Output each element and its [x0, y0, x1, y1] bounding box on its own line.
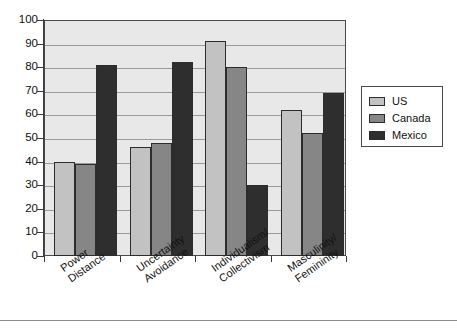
y-tick-label: 30 — [2, 179, 38, 191]
legend-swatch-canada-icon — [369, 114, 385, 123]
legend-item-mexico: Mexico — [369, 127, 442, 144]
x-tick-mark — [271, 256, 272, 262]
x-tick-mark — [120, 256, 121, 262]
y-tick-label: 70 — [2, 85, 38, 97]
x-tick-mark — [195, 256, 196, 262]
y-tick-label: 60 — [2, 109, 38, 121]
y-tick-label: 100 — [2, 14, 38, 26]
bar-mexico-1 — [172, 62, 193, 256]
legend-item-canada: Canada — [369, 110, 442, 127]
x-tick-mark — [44, 256, 45, 262]
bar-us-1 — [130, 147, 151, 256]
y-tick-label: 0 — [2, 250, 38, 262]
legend-swatch-mexico-icon — [369, 131, 385, 140]
y-tick-label: 90 — [2, 38, 38, 50]
y-tick-label: 20 — [2, 203, 38, 215]
legend-item-us: US — [369, 93, 442, 110]
y-tick-label: 40 — [2, 156, 38, 168]
bars-layer — [44, 20, 346, 256]
legend-label-canada: Canada — [392, 113, 431, 124]
legend-label-mexico: Mexico — [392, 130, 427, 141]
bar-mexico-3 — [323, 93, 344, 256]
bar-mexico-0 — [96, 65, 117, 256]
legend-label-us: US — [392, 96, 407, 107]
x-tick-mark — [346, 256, 347, 262]
y-tick-label: 10 — [2, 227, 38, 239]
bar-us-0 — [54, 162, 75, 256]
bar-us-3 — [281, 110, 302, 256]
grouped-bar-chart: 0102030405060708090100 PowerDistanceUnce… — [0, 0, 457, 331]
legend: US Canada Mexico — [361, 86, 443, 147]
bar-us-2 — [205, 41, 226, 256]
bottom-divider — [0, 320, 457, 321]
legend-swatch-us-icon — [369, 97, 385, 106]
y-tick-label: 50 — [2, 132, 38, 144]
bar-canada-3 — [302, 133, 323, 256]
y-tick-label: 80 — [2, 61, 38, 73]
bar-canada-2 — [226, 67, 247, 256]
